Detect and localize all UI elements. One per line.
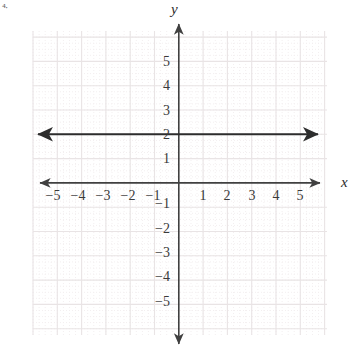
y-tick-label-2: 2 bbox=[146, 128, 170, 142]
x-tick-label-4: 4 bbox=[266, 189, 286, 203]
x-tick-label-5: 5 bbox=[290, 189, 310, 203]
y-tick-label-4: 4 bbox=[146, 79, 170, 93]
x-tick-label-2: 2 bbox=[217, 189, 237, 203]
graph-canvas bbox=[0, 0, 358, 349]
y-tick-label-neg-2: −2 bbox=[140, 222, 170, 236]
y-tick-label-3: 3 bbox=[146, 104, 170, 118]
coordinate-plane-figure: ⁴· bbox=[0, 0, 358, 349]
x-tick-label-1: 1 bbox=[193, 189, 213, 203]
x-axis-label: x bbox=[341, 175, 348, 190]
y-tick-label-neg-5: −5 bbox=[140, 295, 170, 309]
y-axis-label: y bbox=[171, 2, 178, 17]
x-tick-label-neg-1: −1 bbox=[138, 189, 168, 203]
x-tick-label-3: 3 bbox=[242, 189, 262, 203]
y-tick-label-neg-3: −3 bbox=[140, 246, 170, 260]
y-tick-label-neg-4: −4 bbox=[140, 270, 170, 284]
y-tick-label-1: 1 bbox=[146, 152, 170, 166]
y-tick-label-5: 5 bbox=[146, 55, 170, 69]
